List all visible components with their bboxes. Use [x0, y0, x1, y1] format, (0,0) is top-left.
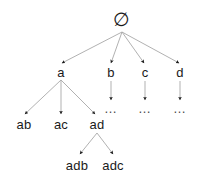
tree-edge	[61, 80, 95, 114]
tree-node-root: ∅	[113, 10, 130, 29]
tree-node-c: c	[142, 66, 149, 79]
tree-edge	[97, 133, 113, 154]
tree-node-b-dots: …	[104, 102, 118, 115]
tree-node-d: d	[176, 66, 183, 79]
prefix-tree-diagram: ∅abcdabacadadbadc………	[0, 0, 203, 179]
tree-edge	[122, 32, 144, 63]
tree-edge	[25, 80, 61, 114]
edge-group	[25, 32, 180, 154]
tree-edge	[80, 133, 97, 154]
tree-node-adc: adc	[102, 159, 124, 172]
tree-edges-canvas	[0, 0, 203, 179]
tree-node-d-dots: …	[173, 102, 187, 115]
tree-node-ad: ad	[90, 118, 105, 131]
tree-node-ac: ac	[54, 118, 68, 131]
tree-node-a: a	[57, 66, 64, 79]
tree-edge	[122, 32, 179, 63]
tree-node-b: b	[107, 66, 114, 79]
tree-node-adb: adb	[66, 159, 88, 172]
tree-node-ab: ab	[17, 118, 32, 131]
tree-node-c-dots: …	[138, 102, 152, 115]
